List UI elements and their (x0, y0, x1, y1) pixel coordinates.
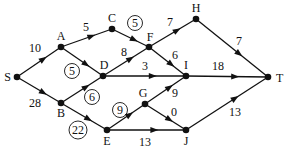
node-i (183, 73, 190, 80)
labels-layer: 102855583767186229901313SABCDEFGHIJT (4, 1, 284, 149)
node-label-b: B (57, 106, 65, 120)
edge-a-d (61, 47, 103, 76)
node-label-t: T (276, 71, 284, 85)
arrowhead-icon (231, 74, 239, 80)
arrowhead-icon (230, 94, 240, 103)
edge-b-e (61, 103, 107, 130)
node-e (104, 127, 111, 134)
edge-g-i (145, 76, 186, 104)
edge-label-f-h: 7 (167, 15, 173, 29)
arrowhead-icon (126, 54, 136, 63)
edge-b-d (61, 76, 103, 103)
node-label-a: A (57, 29, 66, 43)
node-label-c: C (108, 11, 116, 25)
edge-label-g-j: 0 (171, 105, 177, 119)
arrowhead-icon (38, 54, 48, 63)
arrowhead-icon (150, 127, 158, 133)
edge-label-g-i: 9 (172, 86, 178, 100)
arrowhead-icon (129, 35, 139, 44)
node-g (142, 101, 149, 108)
node-s (14, 74, 21, 81)
edge-label-b-d: 6 (89, 90, 95, 104)
edge-label-b-e: 22 (72, 123, 84, 137)
edge-j-t (186, 77, 268, 130)
edge-h-t (196, 19, 268, 77)
edge-label-e-g: 9 (117, 103, 123, 117)
arrowhead-icon (172, 26, 182, 35)
edge-label-c-f: 5 (132, 16, 138, 30)
node-t (265, 74, 272, 81)
edge-i-t (186, 76, 268, 77)
edge-c-f (112, 29, 149, 47)
edge-g-j (145, 104, 186, 130)
edge-label-d-i: 3 (142, 59, 148, 73)
node-f (146, 44, 153, 51)
edge-label-h-t: 7 (236, 34, 242, 48)
arrowhead-icon (81, 60, 91, 69)
edge-label-d-f: 8 (121, 45, 127, 59)
arrowhead-icon (149, 73, 157, 79)
node-d (100, 73, 107, 80)
edge-label-s-b: 28 (29, 96, 41, 110)
node-label-j: J (184, 134, 189, 148)
edge-label-a-d: 5 (69, 64, 75, 78)
edge-label-i-t: 18 (212, 59, 224, 73)
node-label-f: F (147, 30, 154, 44)
node-label-h: H (192, 1, 201, 15)
edge-label-s-a: 10 (29, 41, 41, 55)
node-c (109, 26, 116, 33)
edge-label-f-i: 6 (172, 48, 178, 62)
arrowhead-icon (84, 115, 94, 124)
node-h (193, 16, 200, 23)
node-label-e: E (103, 134, 110, 148)
edge-label-e-j: 13 (139, 135, 151, 149)
node-label-s: S (4, 70, 11, 84)
node-label-g: G (139, 86, 148, 100)
node-j (183, 127, 190, 134)
node-label-i: I (184, 58, 188, 72)
node-a (58, 44, 65, 51)
edge-label-a-c: 5 (83, 20, 89, 34)
network-graph: 102855583767186229901313SABCDEFGHIJT (0, 0, 288, 152)
node-label-d: D (100, 58, 109, 72)
edge-f-i (149, 47, 186, 76)
edge-label-j-t: 13 (229, 105, 241, 119)
